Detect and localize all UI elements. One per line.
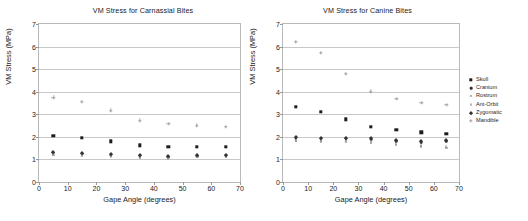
- y-tick-mark: [36, 24, 39, 25]
- data-point: [445, 145, 447, 148]
- chart-panel-canine: VM Stress for Canine Bites 0123456701020…: [250, 0, 465, 221]
- y-tick-label: 4: [276, 88, 280, 95]
- legend-marker-icon: [468, 92, 476, 100]
- data-point: [445, 103, 448, 106]
- data-point: [167, 145, 170, 148]
- x-tick-label: 20: [329, 185, 337, 192]
- legend-marker-icon: [468, 84, 476, 92]
- y-tick-label: 0: [276, 179, 280, 186]
- y-tick-mark: [36, 47, 39, 48]
- data-point: [294, 105, 297, 108]
- legend-marker-icon: [468, 101, 476, 109]
- x-tick-label: 10: [64, 185, 72, 192]
- x-tick-label: 70: [236, 185, 244, 192]
- x-tick-label: 0: [37, 185, 41, 192]
- data-point: [394, 138, 398, 142]
- legend-marker-icon: [468, 117, 476, 125]
- gridline-y: [39, 137, 240, 138]
- legend-marker-icon: [468, 109, 476, 117]
- data-point: [224, 125, 227, 128]
- legend-item-skull[interactable]: Skull: [468, 76, 528, 84]
- legend-item-zygomatic[interactable]: Zygomatic: [468, 109, 528, 117]
- y-tick-label: 3: [32, 111, 36, 118]
- y-tick-mark: [280, 92, 283, 93]
- data-point: [80, 151, 84, 155]
- x-tick-label: 10: [304, 185, 312, 192]
- y-tick-label: 3: [276, 111, 280, 118]
- x-tick-label: 40: [380, 185, 388, 192]
- legend-item-label: Zygomatic: [476, 110, 502, 116]
- legend-item-rostrum[interactable]: Rostrum: [468, 92, 528, 100]
- y-tick-mark: [36, 137, 39, 138]
- legend-item-cranium[interactable]: Cranium: [468, 84, 528, 92]
- legend-item-ant-orbit[interactable]: Ant-Orbit: [468, 101, 528, 109]
- y-tick-label: 1: [276, 156, 280, 163]
- data-point: [80, 100, 83, 103]
- legend-item-label: Mandible: [476, 118, 499, 124]
- y-tick-label: 2: [276, 133, 280, 140]
- x-tick-label: 50: [405, 185, 413, 192]
- y-tick-mark: [280, 137, 283, 138]
- chart-title-canine: VM Stress for Canine Bites: [250, 6, 475, 15]
- gridline-y: [39, 69, 240, 70]
- chart-panel-carnassial: VM Stress for Carnassial Bites 012345670…: [0, 0, 250, 221]
- gridline-y: [39, 92, 240, 93]
- x-tick-label: 30: [355, 185, 363, 192]
- data-point: [109, 109, 112, 112]
- x-tick-label: 50: [179, 185, 187, 192]
- data-point: [52, 96, 55, 99]
- y-tick-mark: [280, 24, 283, 25]
- legend-item-label: Skull: [476, 77, 488, 83]
- gridline-y: [283, 69, 459, 70]
- data-point: [294, 40, 297, 43]
- data-point: [138, 119, 141, 122]
- data-point: [370, 140, 372, 143]
- legend-item-label: Rostrum: [476, 93, 497, 99]
- data-point: [344, 118, 347, 121]
- y-tick-label: 1: [32, 156, 36, 163]
- x-tick-label: 70: [455, 185, 463, 192]
- legend-item-label: Cranium: [476, 85, 497, 91]
- gridline-y: [39, 114, 240, 115]
- y-tick-mark: [36, 159, 39, 160]
- legend-item-label: Ant-Orbit: [476, 102, 498, 108]
- gridline-y: [283, 159, 459, 160]
- y-tick-label: 5: [32, 66, 36, 73]
- y-tick-label: 2: [32, 133, 36, 140]
- plot-area-canine: 01234567010203040506070Gape Angle (degre…: [282, 23, 460, 183]
- data-point: [319, 51, 322, 54]
- data-point: [195, 123, 198, 126]
- data-point: [80, 136, 83, 139]
- y-tick-label: 6: [276, 43, 280, 50]
- y-tick-label: 7: [32, 21, 36, 28]
- x-tick-label: 60: [207, 185, 215, 192]
- plot-area-carnassial: 01234567010203040506070Gape Angle (degre…: [38, 23, 241, 183]
- x-tick-label: 40: [150, 185, 158, 192]
- y-tick-mark: [36, 114, 39, 115]
- data-point: [319, 136, 323, 140]
- chart-title-carnassial: VM Stress for Carnassial Bites: [0, 6, 268, 15]
- data-point: [394, 128, 397, 131]
- data-point: [394, 97, 397, 100]
- data-point: [420, 101, 423, 104]
- x-axis-title: Gape Angle (degrees): [39, 195, 240, 204]
- data-point: [224, 145, 227, 148]
- y-tick-label: 7: [276, 21, 280, 28]
- legend-item-mandible[interactable]: Mandible: [468, 117, 528, 125]
- data-point: [420, 130, 423, 133]
- data-point: [344, 72, 347, 75]
- data-point: [167, 122, 170, 125]
- gridline-y: [39, 47, 240, 48]
- data-point: [195, 145, 198, 148]
- y-axis-title-canine: VM Stress (MPa): [248, 17, 257, 97]
- y-tick-mark: [280, 114, 283, 115]
- data-point: [319, 110, 322, 113]
- legend-marker-icon: [468, 76, 476, 84]
- data-point: [445, 132, 448, 135]
- data-point: [109, 140, 112, 143]
- y-tick-mark: [280, 159, 283, 160]
- x-axis-title: Gape Angle (degrees): [283, 195, 459, 204]
- x-tick-label: 60: [430, 185, 438, 192]
- x-tick-label: 0: [281, 185, 285, 192]
- x-tick-label: 20: [93, 185, 101, 192]
